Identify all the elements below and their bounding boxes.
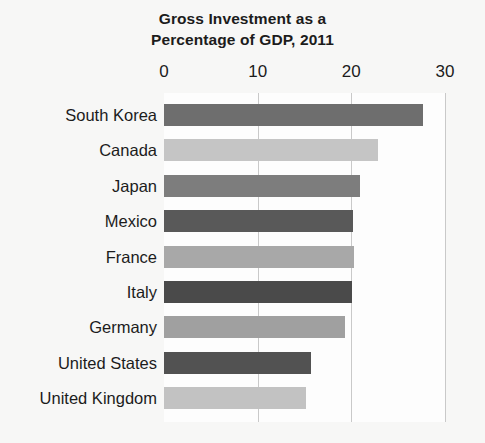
category-label: United States — [0, 354, 157, 373]
x-tick-label-10: 10 — [248, 62, 267, 82]
bar — [164, 281, 352, 303]
bar — [164, 352, 311, 374]
bar — [164, 139, 378, 161]
x-tick-label-0: 0 — [159, 62, 168, 82]
category-label: Japan — [0, 177, 157, 196]
category-label: Italy — [0, 283, 157, 302]
bar — [164, 246, 354, 268]
chart-title-line-2: Percentage of GDP, 2011 — [0, 29, 485, 50]
bar-chart-figure: Gross Investment as a Percentage of GDP,… — [0, 0, 485, 443]
bar — [164, 387, 306, 409]
category-label: United Kingdom — [0, 389, 157, 408]
x-tick-label-20: 20 — [342, 62, 361, 82]
bars-layer — [164, 93, 445, 422]
category-label: South Korea — [0, 106, 157, 125]
bar — [164, 104, 423, 126]
bar — [164, 175, 360, 197]
category-label: Canada — [0, 141, 157, 160]
bar — [164, 210, 353, 232]
gridline-30 — [445, 93, 446, 422]
category-axis-labels: South KoreaCanadaJapanMexicoFranceItalyG… — [0, 93, 157, 422]
category-label: Germany — [0, 318, 157, 337]
bar — [164, 316, 345, 338]
category-label: Mexico — [0, 212, 157, 231]
x-tick-label-30: 30 — [436, 62, 455, 82]
chart-title: Gross Investment as a Percentage of GDP,… — [0, 8, 485, 50]
category-label: France — [0, 248, 157, 267]
chart-title-line-1: Gross Investment as a — [0, 8, 485, 29]
